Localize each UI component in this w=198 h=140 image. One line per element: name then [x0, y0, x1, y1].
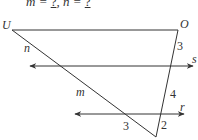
angle-3-bottom-label: 3: [123, 120, 129, 132]
angle-4-label: 4: [170, 88, 176, 100]
line-n-label: n: [24, 42, 30, 54]
point-u-label: U: [2, 19, 11, 31]
angle-3-top-label: 3: [177, 40, 183, 52]
geometry-figure: m = ?, n = ? U O n m s r 3 4 3 2: [0, 0, 198, 140]
transversal-right: [156, 30, 178, 137]
line-m-label: m: [76, 86, 85, 98]
line-s-label: s: [192, 53, 197, 65]
line-r-label: r: [180, 101, 185, 113]
angle-2-label: 2: [161, 119, 167, 131]
point-o-label: O: [180, 18, 189, 30]
figure-lines: [0, 0, 198, 140]
transversal-left: [12, 30, 156, 137]
